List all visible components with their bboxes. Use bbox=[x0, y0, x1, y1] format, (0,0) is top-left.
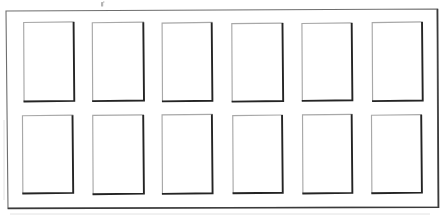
grid-cell-face bbox=[24, 22, 75, 101]
grid-cell[interactable] bbox=[233, 115, 283, 193]
grid-cell[interactable] bbox=[302, 23, 352, 101]
diagram-canvas: Grid Layout Diagram Hand-drawn rectangul… bbox=[0, 0, 445, 217]
grid-diagram bbox=[0, 0, 445, 217]
grid-cell-face bbox=[232, 23, 283, 101]
grid-cell-face bbox=[162, 114, 213, 193]
grid-cell[interactable] bbox=[371, 115, 421, 194]
grid-cell[interactable] bbox=[22, 115, 73, 193]
grid-cell-face bbox=[93, 115, 144, 194]
grid-cell[interactable] bbox=[92, 22, 144, 101]
grid-cell-face bbox=[372, 22, 423, 101]
grid-cell[interactable] bbox=[303, 114, 353, 193]
grid-cell-face bbox=[371, 115, 421, 193]
grid-cell[interactable] bbox=[24, 22, 75, 102]
grid-cell-face bbox=[303, 114, 353, 193]
grid-cell-face bbox=[22, 115, 73, 193]
grid-cell[interactable] bbox=[162, 22, 212, 101]
grid-cell[interactable] bbox=[232, 23, 283, 102]
grid-cell[interactable] bbox=[93, 115, 144, 194]
grid-cell[interactable] bbox=[372, 22, 423, 101]
grid-cell-face bbox=[233, 115, 283, 193]
grid-cell-face bbox=[92, 22, 144, 101]
grid-cell-face bbox=[302, 23, 352, 101]
grid-cell[interactable] bbox=[162, 114, 213, 194]
grid-cell-face bbox=[162, 22, 212, 101]
